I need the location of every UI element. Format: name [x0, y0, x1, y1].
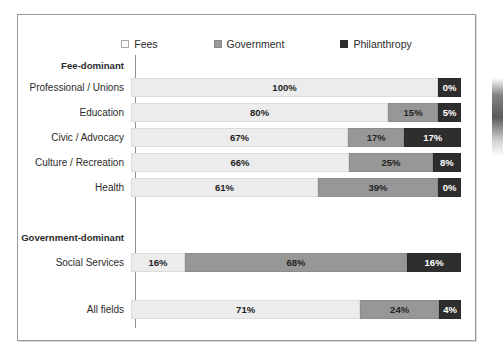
stacked-bar[interactable]: 100% 0%	[131, 78, 461, 97]
row-label: Education	[18, 107, 130, 118]
group-heading-fee-dominant: Fee-dominant	[18, 55, 475, 76]
bar-segment-fees[interactable]: 67%	[131, 128, 348, 147]
chart-row: All fields 71% 24% 4%	[18, 299, 475, 320]
stacked-bar[interactable]: 71% 24% 4%	[131, 300, 461, 319]
bar-segment-philanthropy[interactable]: 0%	[438, 78, 461, 97]
chart-row: Health 61% 39% 0%	[18, 177, 475, 198]
bar-segment-government[interactable]: 39%	[318, 178, 438, 197]
stacked-bar[interactable]: 61% 39% 0%	[131, 178, 461, 197]
group-label: Fee-dominant	[18, 60, 130, 71]
chart-row: Professional / Unions 100% 0%	[18, 77, 475, 98]
bar-segment-government[interactable]: 17%	[348, 128, 405, 147]
plot-area: Fee-dominant Professional / Unions 100% …	[18, 55, 475, 332]
row-label: Health	[18, 182, 130, 193]
bar-segment-philanthropy[interactable]: 8%	[433, 153, 461, 172]
legend-label-government: Government	[227, 38, 285, 50]
row-label: Social Services	[18, 257, 130, 268]
chart-row: Social Services 16% 68% 16%	[18, 252, 475, 273]
bar-segment-government[interactable]: 15%	[388, 103, 438, 122]
chart-legend: Fees Government Philanthropy	[18, 35, 475, 53]
row-label: Professional / Unions	[18, 82, 130, 93]
bar-segment-fees[interactable]: 71%	[131, 300, 360, 319]
chart-row: Civic / Advocacy 67% 17% 17%	[18, 127, 475, 148]
bar-segment-fees[interactable]: 100%	[131, 78, 438, 97]
stacked-bar[interactable]: 67% 17% 17%	[131, 128, 461, 147]
bar-segment-government[interactable]: 68%	[185, 253, 407, 272]
bar-segment-government[interactable]: 24%	[360, 300, 439, 319]
chart-frame: Fees Government Philanthropy Fee-dominan…	[17, 14, 476, 341]
group-label: Government-dominant	[18, 232, 130, 243]
stacked-bar[interactable]: 66% 25% 8%	[131, 153, 461, 172]
bar-segment-philanthropy[interactable]: 16%	[407, 253, 461, 272]
chart-row: Education 80% 15% 5%	[18, 102, 475, 123]
government-swatch-icon	[214, 40, 222, 48]
bar-segment-philanthropy[interactable]: 0%	[438, 178, 461, 197]
row-label: All fields	[18, 304, 130, 315]
stacked-bar[interactable]: 16% 68% 16%	[131, 253, 461, 272]
bar-segment-government[interactable]: 25%	[349, 153, 433, 172]
row-label: Civic / Advocacy	[18, 132, 130, 143]
legend-label-philanthropy: Philanthropy	[353, 38, 411, 50]
legend-item-government[interactable]: Government	[214, 38, 285, 50]
bar-segment-fees[interactable]: 61%	[131, 178, 318, 197]
bar-segment-fees[interactable]: 80%	[131, 103, 388, 122]
bar-segment-fees[interactable]: 66%	[131, 153, 349, 172]
legend-label-fees: Fees	[134, 38, 157, 50]
page-scan-artifact	[492, 78, 503, 156]
bar-segment-philanthropy[interactable]: 17%	[404, 128, 461, 147]
legend-item-fees[interactable]: Fees	[121, 38, 157, 50]
bar-segment-philanthropy[interactable]: 5%	[438, 103, 461, 122]
bar-segment-fees[interactable]: 16%	[131, 253, 185, 272]
philanthropy-swatch-icon	[340, 40, 348, 48]
chart-row: Culture / Recreation 66% 25% 8%	[18, 152, 475, 173]
group-heading-government-dominant: Government-dominant	[18, 227, 475, 248]
fees-swatch-icon	[121, 40, 129, 48]
stacked-bar[interactable]: 80% 15% 5%	[131, 103, 461, 122]
row-label: Culture / Recreation	[18, 157, 130, 168]
legend-item-philanthropy[interactable]: Philanthropy	[340, 38, 411, 50]
bar-segment-philanthropy[interactable]: 4%	[439, 300, 461, 319]
